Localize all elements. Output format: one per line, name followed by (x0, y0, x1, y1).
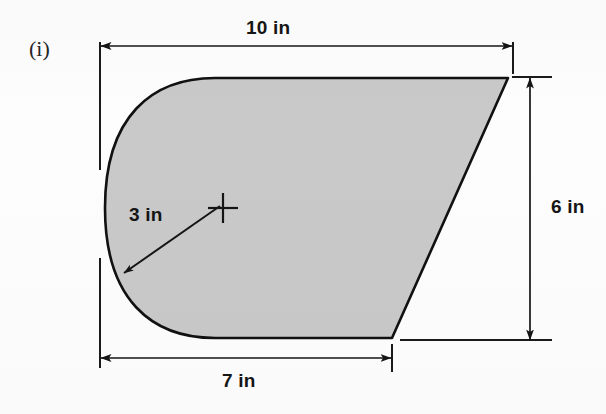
geometry-figure (0, 0, 606, 414)
figure-page: (i) 10 in 6 in 7 in 3 in (0, 0, 606, 414)
dimension-label-bottom: 7 in (222, 370, 256, 392)
shaded-region (105, 78, 508, 338)
part-label: (i) (29, 36, 50, 62)
dimension-label-radius: 3 in (129, 204, 163, 226)
dimension-label-top: 10 in (246, 17, 290, 39)
dimension-label-right: 6 in (551, 196, 585, 218)
